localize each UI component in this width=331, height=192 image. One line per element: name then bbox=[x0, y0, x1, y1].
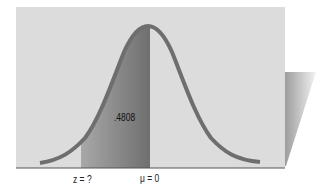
normal-curve-diagram: .4808 z = ? μ = 0 bbox=[0, 0, 331, 192]
side-panel bbox=[284, 72, 316, 166]
shaded-area-value: .4808 bbox=[114, 112, 135, 123]
z-label: z = ? bbox=[73, 174, 92, 185]
mu-label: μ = 0 bbox=[140, 173, 159, 184]
diagram-graphic bbox=[0, 0, 331, 192]
background-panel bbox=[16, 7, 285, 168]
